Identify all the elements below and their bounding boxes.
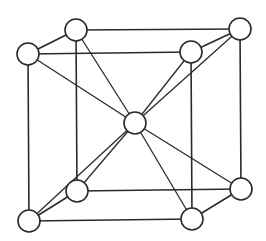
body-diagonal (28, 54, 135, 123)
atom-front-bottom-left (18, 210, 40, 232)
cube-edge (28, 54, 29, 221)
atom-back-top-left (65, 19, 87, 41)
atom-body-center (124, 112, 146, 134)
body-diagonal (135, 123, 241, 189)
cube-edge (77, 189, 241, 191)
atom-back-bottom-right (230, 178, 252, 200)
cube-edge (240, 29, 241, 189)
body-diagonal (135, 123, 192, 219)
atom-front-top-right (180, 41, 202, 63)
atom-back-top-right (229, 18, 251, 40)
bcc-unit-cell-diagram (0, 0, 266, 241)
body-diagonal (76, 30, 135, 123)
cube-edge (191, 52, 192, 219)
cube-edge (76, 29, 240, 30)
atom-back-bottom-left (66, 180, 88, 202)
cube-edge (28, 52, 191, 54)
body-diagonal (29, 123, 135, 221)
body-diagonal (135, 52, 191, 123)
body-diagonal (77, 123, 135, 191)
cube-edge (29, 219, 192, 221)
atom-front-top-left (17, 43, 39, 65)
unit-cell-svg (0, 0, 266, 241)
atom-front-bottom-right (181, 208, 203, 230)
